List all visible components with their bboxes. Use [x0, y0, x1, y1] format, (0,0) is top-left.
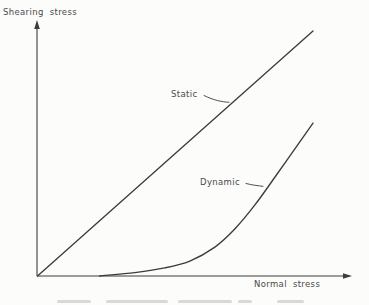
static-curve — [38, 31, 314, 276]
clipped-caption-fragment — [178, 300, 232, 303]
stress-chart-svg — [0, 0, 369, 305]
figure-canvas: Shearing stress Static Dynamic Normal st… — [0, 0, 369, 305]
clipped-caption-fragment — [238, 300, 252, 303]
x-axis-label: Normal stress — [254, 279, 320, 289]
clipped-caption-fragment — [106, 300, 168, 303]
static-annotation-label: Static — [171, 89, 197, 99]
y-axis-arrowhead — [34, 20, 40, 29]
series-curves — [38, 31, 314, 276]
dynamic-annotation-label: Dynamic — [200, 177, 240, 187]
y-axis-label: Shearing stress — [3, 7, 77, 17]
dynamic-label-leader-line — [246, 184, 263, 187]
axes — [34, 20, 352, 279]
clipped-caption-fragment — [277, 300, 304, 303]
dynamic-curve — [100, 123, 314, 276]
clipped-caption-fragment — [57, 300, 91, 303]
x-axis-arrowhead — [343, 273, 352, 279]
static-label-leader-line — [204, 96, 229, 103]
